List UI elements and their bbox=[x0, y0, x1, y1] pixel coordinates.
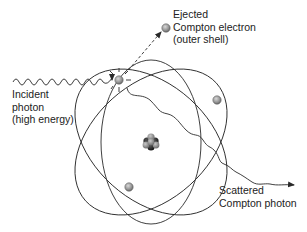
scattered-photon-label: Scattered Compton photon bbox=[219, 184, 297, 209]
incident-photon-label: Incident photon (high energy) bbox=[12, 88, 74, 126]
ejected-electron-label: Ejected Compton electron (outer shell) bbox=[173, 8, 256, 46]
orbit-electron-lower bbox=[125, 183, 133, 191]
orbit-electron-right bbox=[213, 96, 221, 104]
incident-label-line3: (high energy) bbox=[12, 113, 74, 126]
incident-photon-wave bbox=[13, 78, 112, 85]
nucleus-icon bbox=[143, 133, 160, 150]
scattered-label-line1: Scattered bbox=[219, 184, 297, 197]
ejected-label-line1: Ejected bbox=[173, 8, 256, 21]
ejection-dashed-arrow bbox=[125, 32, 161, 74]
ejected-label-line3: (outer shell) bbox=[173, 33, 256, 46]
ejected-electron bbox=[162, 24, 170, 32]
incident-label-line1: Incident bbox=[12, 88, 74, 101]
target-electron bbox=[115, 76, 123, 84]
scattered-label-line2: Compton photon bbox=[219, 197, 297, 210]
incident-label-line2: photon bbox=[12, 101, 74, 114]
ejected-label-line2: Compton electron bbox=[173, 21, 256, 34]
